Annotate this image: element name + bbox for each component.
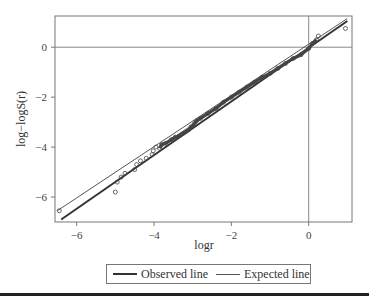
x-tick-label: −2 [225,229,237,241]
observed-line-swatch-icon [113,273,137,275]
bottom-divider [0,293,369,296]
y-tick-label: 0 [42,41,48,53]
x-tick-label: 0 [306,229,312,241]
expected-line-swatch-icon [216,274,240,275]
legend-entry-observed: Observed line [113,267,208,282]
data-point [135,163,139,167]
legend-entry-expected: Expected line [216,267,310,282]
data-point [151,149,155,153]
x-tick-label: −6 [71,229,83,241]
chart-canvas: −6−4−200−2−4−6 logr log−logS(r) [0,0,369,298]
plot-area: −6−4−200−2−4−6 [35,16,352,241]
x-axis-title: logr [194,238,213,252]
data-point [343,26,347,30]
data-point [113,190,117,194]
legend-label-expected: Expected line [244,267,310,282]
legend-label-observed: Observed line [141,267,208,282]
data-point [138,159,142,163]
y-tick-label: −6 [35,191,47,203]
legend: Observed line Expected line [106,264,311,284]
y-axis-title: log−logS(r) [14,91,28,147]
y-tick-label: −4 [35,141,47,153]
x-tick-label: −4 [148,229,160,241]
y-tick-label: −2 [35,91,47,103]
